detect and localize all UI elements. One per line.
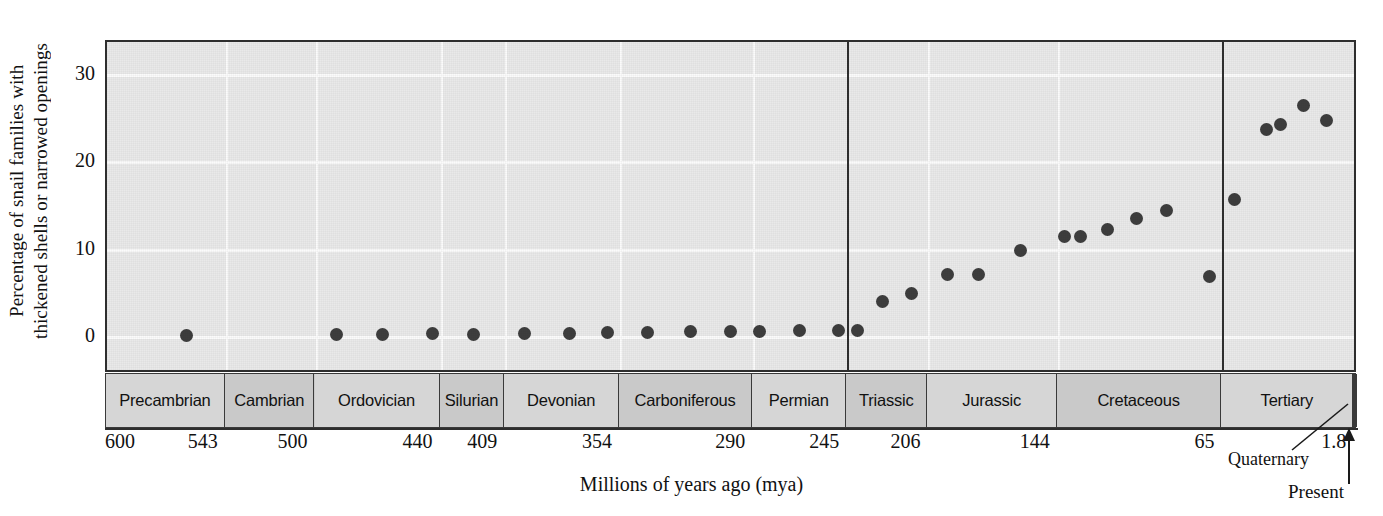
- period-band-label: Carboniferous: [635, 391, 736, 410]
- data-point: [1160, 204, 1173, 217]
- period-band-devonian: Devonian: [504, 374, 619, 427]
- x-axis-tick-label: 543: [188, 431, 218, 451]
- geologic-period-strip: PrecambrianCambrianOrdovicianSilurianDev…: [105, 373, 1356, 428]
- x-axis-tick-label: 440: [403, 431, 433, 451]
- period-band-label: Cambrian: [234, 391, 304, 410]
- x-axis-tick-label: 290: [715, 431, 745, 451]
- period-band-label: Cretaceous: [1097, 391, 1179, 410]
- gridline-vertical: [226, 42, 228, 370]
- data-point: [180, 329, 193, 342]
- period-band-carboniferous: Carboniferous: [619, 374, 752, 427]
- data-point: [518, 327, 531, 340]
- data-point: [376, 328, 389, 341]
- period-band-label: Permian: [769, 391, 829, 410]
- period-band-label: Ordovician: [338, 391, 415, 410]
- gridline-horizontal: [107, 74, 1354, 77]
- y-axis-tick-label: 0: [53, 325, 95, 345]
- period-band-quaternary: [1353, 374, 1357, 427]
- period-band-jurassic: Jurassic: [927, 374, 1056, 427]
- figure-scatter-snail-shell-defenses: Percentage of snail families with thicke…: [0, 0, 1383, 516]
- y-axis-label-line-1: Percentage of snail families with: [6, 18, 28, 363]
- x-axis-tick-label: 245: [809, 431, 839, 451]
- data-point: [1320, 114, 1333, 127]
- period-band-cretaceous: Cretaceous: [1057, 374, 1222, 427]
- gridline-horizontal: [107, 161, 1354, 164]
- data-point: [972, 268, 985, 281]
- data-point: [1014, 244, 1027, 257]
- data-point: [1130, 212, 1143, 225]
- x-axis-tick-label: 500: [278, 431, 308, 451]
- gridline-vertical: [928, 42, 930, 370]
- data-point: [1203, 270, 1216, 283]
- gridline-vertical: [753, 42, 755, 370]
- period-band-label: Tertiary: [1261, 391, 1314, 410]
- plot-area: [105, 40, 1356, 372]
- period-band-silurian: Silurian: [440, 374, 505, 427]
- data-point: [1260, 123, 1273, 136]
- era-boundary-line: [847, 42, 849, 370]
- x-axis-tick-label: 144: [1020, 431, 1050, 451]
- gridline-vertical: [316, 42, 318, 370]
- period-band-precambrian: Precambrian: [106, 374, 225, 427]
- data-point: [1274, 118, 1287, 131]
- data-point: [601, 326, 614, 339]
- data-point: [330, 328, 343, 341]
- data-point: [1101, 223, 1114, 236]
- y-axis-tick-label: 30: [53, 63, 95, 83]
- gridline-vertical: [1058, 42, 1060, 370]
- gridline-vertical: [441, 42, 443, 370]
- data-point: [941, 268, 954, 281]
- data-point: [1297, 99, 1310, 112]
- period-band-label: Devonian: [527, 391, 595, 410]
- data-point: [1074, 230, 1087, 243]
- x-axis-tick-label: 206: [890, 431, 920, 451]
- y-axis-label-line-2: thickened shells or narrowed openings: [30, 18, 52, 363]
- period-band-ordovician: Ordovician: [315, 374, 440, 427]
- period-band-label: Precambrian: [119, 391, 210, 410]
- y-axis-tick-label: 20: [53, 150, 95, 170]
- x-axis-tick-label: 409: [467, 431, 497, 451]
- x-axis-tick-label: 354: [582, 431, 612, 451]
- data-point: [1058, 230, 1071, 243]
- era-boundary-line: [1222, 42, 1224, 370]
- data-point: [641, 326, 654, 339]
- x-axis-tick-label: 600: [105, 431, 135, 451]
- quaternary-callout-label: Quaternary: [1228, 449, 1309, 470]
- x-axis-tick-label: 65: [1194, 431, 1214, 451]
- gridline-vertical: [620, 42, 622, 370]
- period-band-cambrian: Cambrian: [225, 374, 315, 427]
- period-band-label: Jurassic: [962, 391, 1021, 410]
- period-band-tertiary: Tertiary: [1221, 374, 1353, 427]
- period-band-triassic: Triassic: [846, 374, 927, 427]
- data-point: [876, 295, 889, 308]
- data-point: [426, 327, 439, 340]
- period-band-label: Triassic: [859, 391, 914, 410]
- data-point: [905, 287, 918, 300]
- data-point: [851, 324, 864, 337]
- x-axis-label: Millions of years ago (mya): [0, 473, 1383, 496]
- period-band-label: Silurian: [445, 391, 498, 410]
- x-axis-tick-label: 1.8: [1321, 431, 1346, 451]
- data-point: [1228, 193, 1241, 206]
- gridline-vertical: [505, 42, 507, 370]
- period-band-permian: Permian: [752, 374, 846, 427]
- gridline-vertical: [1354, 42, 1356, 370]
- y-axis-tick-label: 10: [53, 238, 95, 258]
- gridline-horizontal: [107, 249, 1354, 252]
